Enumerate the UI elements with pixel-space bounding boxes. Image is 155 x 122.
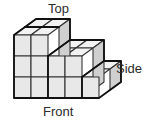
label-front: Front [43, 105, 73, 118]
front-face-r3-c4 [65, 77, 82, 98]
front-face-r3-c2 [31, 77, 48, 98]
cube-stack [14, 19, 121, 98]
front-face-r1-c2 [31, 35, 48, 56]
front-face-r3-c5 [82, 77, 99, 98]
front-face-r2-c2 [31, 56, 48, 77]
figure-container: Top Side Front [0, 0, 155, 122]
label-side: Side [116, 62, 142, 75]
front-face-r2-c3 [48, 56, 65, 77]
label-top: Top [48, 2, 69, 15]
front-face-r3-c1 [14, 77, 31, 98]
front-face-r1-c1 [14, 35, 31, 56]
front-face-r2-c4 [65, 56, 82, 77]
front-face-r3-c3 [48, 77, 65, 98]
front-face-r2-c1 [14, 56, 31, 77]
